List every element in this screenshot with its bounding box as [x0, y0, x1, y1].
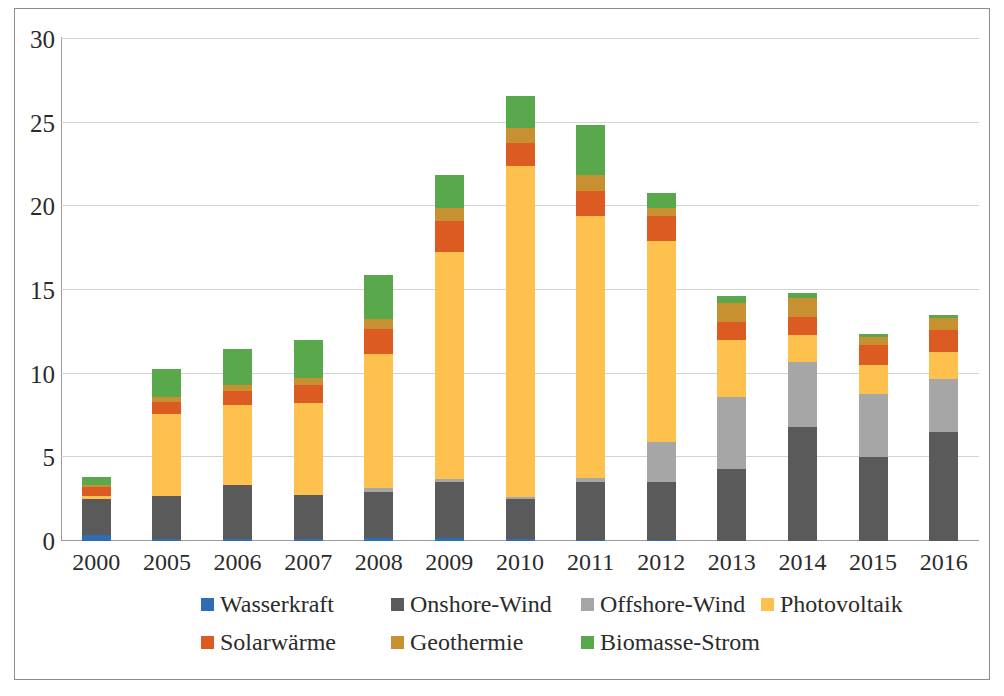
- bar-segment[interactable]: [647, 540, 676, 541]
- bar-segment[interactable]: [929, 379, 958, 433]
- bar-segment[interactable]: [929, 318, 958, 330]
- bar-segment[interactable]: [82, 499, 111, 535]
- bar-segment[interactable]: [576, 216, 605, 479]
- bar-segment[interactable]: [435, 538, 464, 541]
- bar-segment[interactable]: [929, 432, 958, 541]
- bar-segment[interactable]: [223, 485, 252, 539]
- bar-segment[interactable]: [717, 296, 746, 304]
- bar-segment[interactable]: [364, 492, 393, 538]
- legend-item[interactable]: Biomasse-Strom: [581, 630, 760, 654]
- bar-segment[interactable]: [717, 340, 746, 397]
- bar-group[interactable]: [364, 39, 393, 541]
- bar-segment[interactable]: [223, 391, 252, 405]
- bar-segment[interactable]: [788, 362, 817, 427]
- bar-segment[interactable]: [929, 330, 958, 352]
- bar-group[interactable]: [576, 39, 605, 541]
- bar-segment[interactable]: [223, 405, 252, 484]
- bar-segment[interactable]: [788, 298, 817, 316]
- bar-segment[interactable]: [506, 499, 535, 539]
- bar-segment[interactable]: [788, 293, 817, 298]
- legend-item[interactable]: Geothermie: [391, 630, 523, 654]
- legend-item[interactable]: Onshore-Wind: [391, 592, 552, 616]
- bar-segment[interactable]: [859, 457, 888, 541]
- bar-segment[interactable]: [152, 402, 181, 414]
- bar-group[interactable]: [647, 39, 676, 541]
- bar-segment[interactable]: [929, 315, 958, 318]
- bar-segment[interactable]: [152, 397, 181, 402]
- bar-segment[interactable]: [576, 478, 605, 482]
- bar-segment[interactable]: [576, 125, 605, 175]
- bar-segment[interactable]: [647, 216, 676, 241]
- bar-segment[interactable]: [859, 365, 888, 393]
- bar-segment[interactable]: [647, 193, 676, 208]
- bar-segment[interactable]: [859, 394, 888, 458]
- bar-segment[interactable]: [506, 497, 535, 500]
- bar-segment[interactable]: [647, 208, 676, 216]
- bar-segment[interactable]: [506, 166, 535, 496]
- bar-segment[interactable]: [82, 535, 111, 541]
- bar-segment[interactable]: [576, 191, 605, 215]
- bar-segment[interactable]: [364, 319, 393, 329]
- bar-segment[interactable]: [294, 539, 323, 541]
- bar-segment[interactable]: [82, 477, 111, 485]
- bar-segment[interactable]: [859, 345, 888, 365]
- bar-segment[interactable]: [506, 539, 535, 541]
- bar-group[interactable]: [223, 39, 252, 541]
- bar-group[interactable]: [435, 39, 464, 541]
- bar-segment[interactable]: [647, 442, 676, 482]
- bar-group[interactable]: [929, 39, 958, 541]
- bar-segment[interactable]: [717, 322, 746, 340]
- bar-segment[interactable]: [647, 482, 676, 540]
- bar-group[interactable]: [717, 39, 746, 541]
- bar-segment[interactable]: [364, 354, 393, 488]
- bar-segment[interactable]: [717, 469, 746, 541]
- bar-segment[interactable]: [717, 303, 746, 321]
- bar-group[interactable]: [506, 39, 535, 541]
- bar-segment[interactable]: [364, 329, 393, 354]
- bar-segment[interactable]: [788, 335, 817, 362]
- bar-segment[interactable]: [506, 143, 535, 166]
- bar-group[interactable]: [82, 39, 111, 541]
- bar-segment[interactable]: [152, 496, 181, 540]
- bar-segment[interactable]: [294, 403, 323, 495]
- bar-segment[interactable]: [82, 496, 111, 499]
- bar-segment[interactable]: [82, 487, 111, 495]
- bar-segment[interactable]: [152, 369, 181, 397]
- bar-segment[interactable]: [294, 340, 323, 378]
- bar-group[interactable]: [788, 39, 817, 541]
- bar-segment[interactable]: [435, 175, 464, 208]
- bar-segment[interactable]: [506, 96, 535, 128]
- bar-segment[interactable]: [435, 482, 464, 537]
- bar-segment[interactable]: [717, 397, 746, 469]
- bar-segment[interactable]: [859, 337, 888, 345]
- bar-segment[interactable]: [294, 495, 323, 539]
- bar-segment[interactable]: [929, 352, 958, 379]
- bar-segment[interactable]: [294, 385, 323, 403]
- bar-segment[interactable]: [435, 221, 464, 251]
- bar-segment[interactable]: [647, 241, 676, 442]
- bar-segment[interactable]: [294, 378, 323, 385]
- bar-segment[interactable]: [788, 317, 817, 335]
- bar-segment[interactable]: [506, 128, 535, 143]
- bar-segment[interactable]: [223, 349, 252, 386]
- bar-segment[interactable]: [152, 539, 181, 541]
- bar-segment[interactable]: [82, 485, 111, 488]
- legend-item[interactable]: Photovoltaik: [761, 592, 903, 616]
- bar-segment[interactable]: [364, 538, 393, 541]
- bar-segment[interactable]: [576, 540, 605, 541]
- legend-item[interactable]: Solarwärme: [201, 630, 336, 654]
- bar-segment[interactable]: [152, 414, 181, 496]
- bar-segment[interactable]: [435, 252, 464, 480]
- bar-segment[interactable]: [859, 334, 888, 337]
- legend-item[interactable]: Wasserkraft: [201, 592, 334, 616]
- bar-group[interactable]: [294, 39, 323, 541]
- bar-segment[interactable]: [223, 385, 252, 391]
- bar-segment[interactable]: [576, 175, 605, 191]
- legend-item[interactable]: Offshore-Wind: [581, 592, 745, 616]
- bar-segment[interactable]: [364, 488, 393, 491]
- bar-segment[interactable]: [435, 208, 464, 221]
- bar-segment[interactable]: [788, 427, 817, 541]
- bar-segment[interactable]: [223, 539, 252, 541]
- bar-group[interactable]: [152, 39, 181, 541]
- bar-segment[interactable]: [576, 482, 605, 540]
